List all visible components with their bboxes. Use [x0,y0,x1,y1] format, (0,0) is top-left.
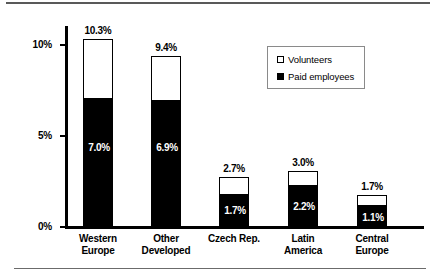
y-tick-1: 5% [60,135,65,137]
bar-segment-label-paid: 1.7% [220,205,250,216]
bar-total-label: 1.7% [342,181,402,192]
legend-label: Paid employees [288,71,354,82]
bottom-divider-rule [14,268,426,269]
bar-group: 1.7% 1.1% [357,195,387,226]
bar-total-label: 9.4% [136,42,196,53]
x-axis-label-central-europe: Central Europe [327,233,417,257]
y-axis-line [65,26,68,229]
y-tick-2: 10% [60,44,65,46]
bar-segment-paid: 1.1% [357,206,387,226]
legend-item-volunteers: Volunteers [277,54,332,65]
y-tick-label-0: 0% [38,221,52,232]
bar-total-label: 2.7% [204,163,264,174]
top-divider-rule [6,2,430,4]
bar-segment-label-paid: 1.1% [358,212,388,223]
bar-segment-volunteers [357,195,387,206]
bar-segment-label-paid: 2.2% [289,201,319,212]
bar-segment-volunteers [151,56,181,101]
bar-segment-volunteers [288,171,318,186]
bar-segment-label-paid: 7.0% [84,142,114,153]
legend-swatch-filled-square-icon [277,73,284,80]
bar-group: 3.0% 2.2% [288,171,318,226]
x-axis-label-line: Europe [327,245,417,257]
bar-segment-paid: 2.2% [288,186,318,226]
legend-label: Volunteers [288,54,332,65]
bar-total-label: 3.0% [273,157,333,168]
bar-group: 10.3% 7.0% [83,39,113,226]
y-tick-0: 0% [60,226,65,228]
bar-segment-paid: 6.9% [151,101,181,226]
plot-area: 0% 5% 10% 10.3% 7.0% 9.4% 6.9% 2.7% [65,26,425,229]
legend-item-paid-employees: Paid employees [277,71,354,82]
bar-group: 9.4% 6.9% [151,56,181,226]
x-axis-label-line: Developed [121,245,211,257]
bar-segment-paid: 1.7% [219,195,249,226]
chart-figure: % of Nonagricultural Employment 0% 5% 10… [0,0,433,279]
bar-segment-volunteers [219,177,249,195]
bar-total-label: 10.3% [68,25,128,36]
bar-group: 2.7% 1.7% [219,177,249,226]
x-axis-line [65,226,424,229]
x-axis-label-line: Central [327,233,417,245]
y-tick-label-2: 10% [33,39,52,50]
y-tick-label-1: 5% [38,130,52,141]
bar-segment-label-paid: 6.9% [152,142,182,153]
legend-swatch-hollow-square-icon [277,56,284,63]
bar-segment-volunteers [83,39,113,99]
chart-legend: Volunteers Paid employees [267,46,365,89]
bar-segment-paid: 7.0% [83,99,113,226]
